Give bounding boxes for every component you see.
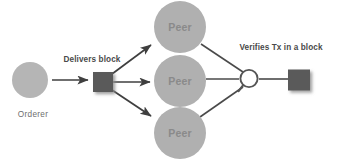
edge-peer-top-to-magnifier: [201, 44, 243, 72]
edge-peer-bottom-to-magnifier: [200, 87, 243, 117]
orderer-circle[interactable]: [12, 62, 48, 98]
link-peer-top-to-magnifier: [201, 44, 243, 72]
peer-label-middle: Peer: [168, 75, 192, 87]
magnifier-icon[interactable]: [239, 70, 258, 91]
caption-verifies-tx: Verifies Tx in a block: [239, 43, 323, 52]
verified-block-node[interactable]: [288, 70, 310, 91]
peer-label-top: Peer: [168, 21, 192, 33]
caption-delivers-block: Delivers block: [64, 55, 121, 64]
label-orderer: Orderer: [18, 110, 48, 119]
peer-label-bottom: Peer: [168, 127, 192, 139]
peer-node-bottom[interactable]: Peer: [154, 107, 206, 159]
arrow-block-to-peer-bottom: [112, 90, 151, 116]
link-peer-bottom-to-magnifier: [200, 87, 243, 117]
diagram-canvas: Peer Peer Peer Delivers block Verifies T…: [0, 0, 342, 160]
peer-node-top[interactable]: Peer: [154, 1, 206, 53]
orderer-node[interactable]: [12, 62, 48, 98]
block-icon-delivered[interactable]: [93, 72, 113, 92]
block-icon-verified[interactable]: [288, 70, 310, 91]
peer-node-middle[interactable]: Peer: [154, 55, 206, 107]
diagram-svg: Peer Peer Peer Delivers block Verifies T…: [0, 0, 342, 160]
delivered-block-node[interactable]: [93, 72, 113, 92]
edge-block-to-peer-bottom: [112, 90, 151, 116]
